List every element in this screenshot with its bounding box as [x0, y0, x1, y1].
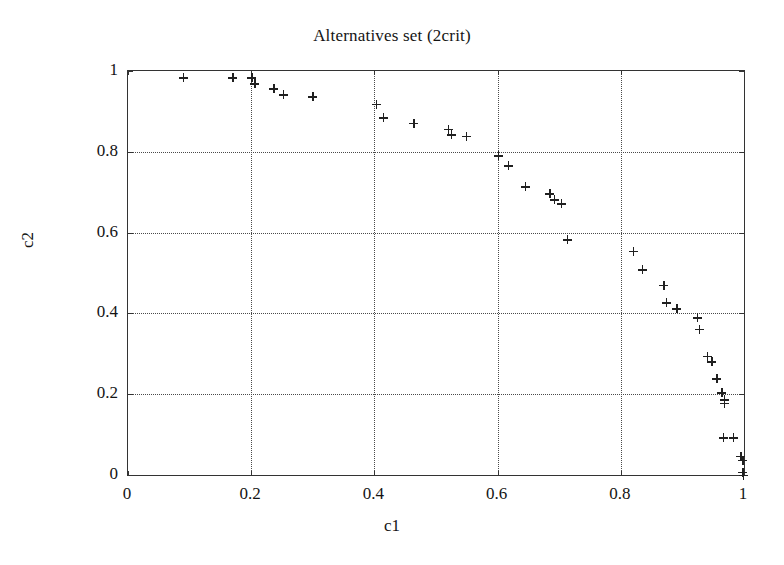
- x-tick-label: 1: [739, 484, 748, 504]
- data-point-marker: [462, 132, 471, 141]
- x-tick-label: 0.4: [363, 484, 384, 504]
- x-axis-label: c1: [0, 516, 784, 536]
- y-tick-label: 0.6: [97, 222, 118, 242]
- x-axis-tick: [621, 471, 622, 476]
- data-point-marker: [738, 456, 747, 465]
- x-tick-label: 0: [123, 484, 132, 504]
- y-tick-label: 0.8: [97, 141, 118, 161]
- x-gridline: [621, 71, 622, 475]
- x-gridline: [374, 71, 375, 475]
- data-point-marker: [717, 388, 726, 397]
- y-axis-tick-right: [739, 475, 745, 476]
- y-tick-label: 0.4: [97, 302, 118, 322]
- y-axis-tick: [127, 394, 133, 395]
- data-point-marker: [279, 90, 288, 99]
- y-gridline: [128, 394, 744, 395]
- data-point-marker: [662, 298, 671, 307]
- y-axis-tick: [127, 313, 133, 314]
- x-axis-tick-top: [251, 70, 252, 75]
- y-tick-label: 0.2: [97, 383, 118, 403]
- data-point-marker: [308, 92, 317, 101]
- x-tick-label: 0.6: [486, 484, 507, 504]
- data-point-marker: [228, 73, 237, 82]
- data-point-marker: [269, 84, 278, 93]
- data-point-marker: [379, 113, 388, 122]
- data-point-marker: [695, 325, 704, 334]
- chart-title: Alternatives set (2crit): [0, 26, 784, 46]
- y-axis-tick-right: [739, 394, 745, 395]
- data-point-marker: [707, 357, 716, 366]
- data-point-marker: [720, 399, 729, 408]
- y-axis-tick: [127, 71, 133, 72]
- y-axis-tick: [127, 233, 133, 234]
- y-axis-tick: [127, 475, 133, 476]
- data-point-marker: [563, 235, 572, 244]
- data-point-marker: [521, 182, 530, 191]
- data-point-marker: [545, 189, 554, 198]
- data-point-marker: [372, 100, 381, 109]
- data-point-marker: [447, 130, 456, 139]
- data-point-marker: [712, 374, 721, 383]
- x-axis-tick: [251, 471, 252, 476]
- data-point-marker: [729, 433, 738, 442]
- x-axis-tick-top: [621, 70, 622, 75]
- y-axis-tick-right: [739, 233, 745, 234]
- y-gridline: [128, 313, 744, 314]
- y-tick-label: 0: [110, 464, 119, 484]
- y-gridline: [128, 233, 744, 234]
- data-point-marker: [557, 199, 566, 208]
- y-axis-tick: [127, 152, 133, 153]
- data-point-marker: [409, 119, 418, 128]
- data-point-marker: [719, 433, 728, 442]
- chart-figure: Alternatives set (2crit) c1 c2 00.20.40.…: [0, 0, 784, 565]
- y-gridline: [128, 152, 744, 153]
- y-axis-label: c2: [18, 232, 38, 248]
- plot-area: [127, 70, 745, 476]
- x-gridline: [498, 71, 499, 475]
- y-tick-label: 1: [110, 60, 119, 80]
- x-tick-label: 0.2: [240, 484, 261, 504]
- x-axis-tick: [374, 471, 375, 476]
- y-axis-tick-right: [739, 152, 745, 153]
- data-point-marker: [659, 281, 668, 290]
- data-point-marker: [703, 352, 712, 361]
- data-point-marker: [444, 125, 453, 134]
- data-point-marker: [550, 195, 559, 204]
- x-gridline: [251, 71, 252, 475]
- y-axis-tick-right: [739, 313, 745, 314]
- data-point-marker: [179, 73, 188, 82]
- data-point-marker: [629, 247, 638, 256]
- y-axis-tick-right: [739, 71, 745, 72]
- data-point-marker: [638, 265, 647, 274]
- data-point-marker: [720, 395, 729, 404]
- data-point-marker: [736, 452, 745, 461]
- data-point-marker: [672, 304, 681, 313]
- data-point-marker: [504, 161, 513, 170]
- x-axis-tick-top: [374, 70, 375, 75]
- data-point-marker: [693, 313, 702, 322]
- x-axis-tick: [498, 471, 499, 476]
- x-axis-tick-top: [498, 70, 499, 75]
- x-tick-label: 0.8: [609, 484, 630, 504]
